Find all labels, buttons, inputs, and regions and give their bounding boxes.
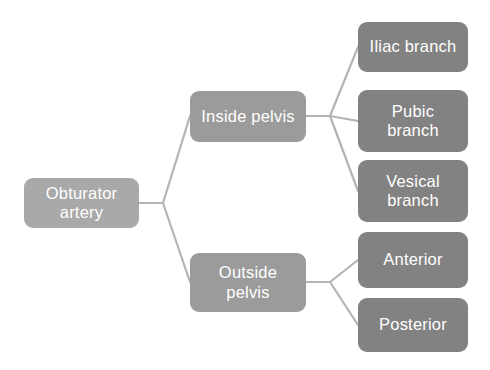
node-label: Pubic branch <box>387 102 439 140</box>
node-obturator-artery[interactable]: Obturator artery <box>24 178 139 228</box>
node-posterior[interactable]: Posterior <box>358 298 468 352</box>
node-vesical-branch[interactable]: Vesical branch <box>358 160 468 222</box>
node-outside-pelvis[interactable]: Outside pelvis <box>190 253 306 312</box>
node-inside-pelvis[interactable]: Inside pelvis <box>190 91 306 142</box>
node-label: Outside pelvis <box>219 263 277 301</box>
node-label: Inside pelvis <box>201 107 294 126</box>
node-iliac-branch[interactable]: Iliac branch <box>358 22 468 72</box>
node-label: Anterior <box>383 250 442 269</box>
node-anterior[interactable]: Anterior <box>358 232 468 288</box>
node-pubic-branch[interactable]: Pubic branch <box>358 90 468 152</box>
outside-pelvis-to-anterior <box>306 260 358 282</box>
outside-pelvis-to-posterior <box>306 282 358 325</box>
obturator-artery-diagram: Obturator artery Inside pelvis Iliac bra… <box>0 0 490 370</box>
node-label: Posterior <box>379 315 447 334</box>
node-label: Iliac branch <box>370 37 457 56</box>
node-label: Obturator artery <box>46 184 118 222</box>
root-to-inside-pelvis <box>139 116 190 203</box>
inside-pelvis-to-iliac-branch <box>306 47 358 116</box>
root-to-outside-pelvis <box>139 203 190 282</box>
node-label: Vesical branch <box>386 172 440 210</box>
inside-pelvis-to-vesical-branch <box>306 116 358 191</box>
